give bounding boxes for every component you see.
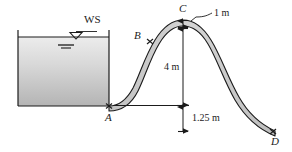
crest-thickness-leader-tail-icon [191,17,196,21]
tailwater-drop-label: 1.25 m [192,113,220,123]
crest-thickness-label: 1 m [214,8,229,18]
point-b-label: B [134,30,141,41]
figure-canvas [0,0,292,152]
water-surface-label: WS [84,14,101,25]
point-a-label: A [105,112,112,123]
crest-height-label: 4 m [164,62,179,72]
tailwater-drop-dimension [178,107,188,132]
point-b-marker-icon [147,39,153,44]
hydraulics-figure: WS A B C D 1 m 4 m 1.25 m [0,0,292,152]
crest-thickness-leader-icon [196,13,212,17]
point-c-label: C [179,3,186,14]
point-d-label: D [271,136,279,147]
reservoir-water-body [18,37,109,106]
